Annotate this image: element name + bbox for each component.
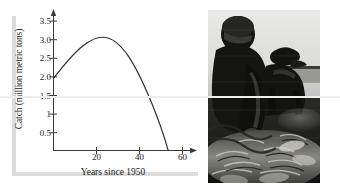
y-tick-label: 1 <box>47 109 52 119</box>
x-tick-label: 40 <box>130 152 150 162</box>
x-axis-title: Years since 1950 <box>58 167 168 177</box>
y-tick-label: 2.5 <box>40 53 51 63</box>
fishery-catch-figure: 3.5 3.0 2.5 2.0 1.5 1 0.5 20 40 60 Catch… <box>0 0 340 195</box>
fishermen-photo <box>208 10 320 183</box>
x-tick-label: 60 <box>173 152 193 162</box>
y-axis <box>51 9 56 151</box>
y-tick-label: 2.0 <box>40 72 51 82</box>
y-axis-title: Catch (million metric tons) <box>14 11 24 147</box>
y-tick-label: 1.5 <box>40 91 51 101</box>
fishermen-photo-art <box>208 10 320 183</box>
y-tick-label: 0.5 <box>40 128 51 138</box>
y-tick-label: 3.0 <box>40 35 51 45</box>
x-tick-label: 20 <box>87 152 107 162</box>
y-tick-label: 3.5 <box>40 16 51 26</box>
catch-vs-years-chart: 3.5 3.0 2.5 2.0 1.5 1 0.5 20 40 60 Catch… <box>0 0 200 195</box>
catch-curve <box>54 37 169 150</box>
